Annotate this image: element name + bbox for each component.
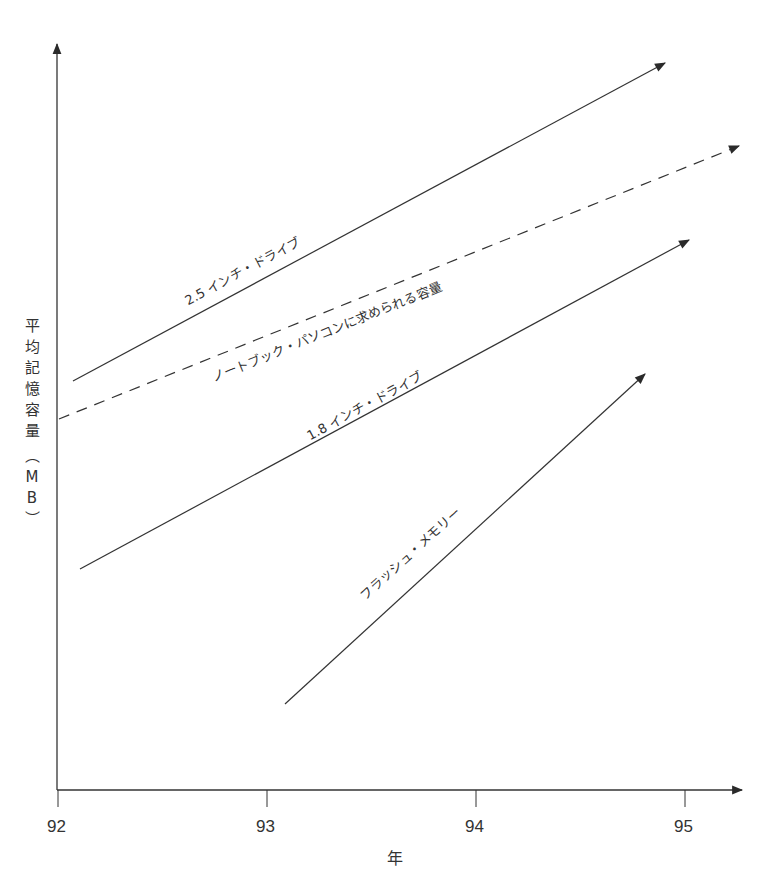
x-tick-label-95: 95 xyxy=(674,817,693,837)
chart-canvas xyxy=(0,0,764,888)
y-title-unit: M xyxy=(22,467,42,488)
series-line-2-5-inch-drive xyxy=(73,63,665,381)
y-title-char: 容 xyxy=(22,400,42,421)
y-title-unit: ︶ xyxy=(22,509,42,530)
y-title-char: 平 xyxy=(22,316,42,337)
y-title-char: 量 xyxy=(22,421,42,442)
y-title-unit: B xyxy=(22,488,42,509)
y-title-char: 憶 xyxy=(22,379,42,400)
y-title-char: 均 xyxy=(22,337,42,358)
x-tick-label-94: 94 xyxy=(465,817,484,837)
x-tick-label-92: 92 xyxy=(47,817,66,837)
y-title-unit: ︵ xyxy=(22,446,42,467)
x-tick-label-93: 93 xyxy=(256,817,275,837)
x-axis-title: 年 xyxy=(387,845,403,869)
y-title-char: 記 xyxy=(22,358,42,379)
y-axis-title: 平 均 記 憶 容 量 ︵ M B ︶ xyxy=(22,316,42,530)
